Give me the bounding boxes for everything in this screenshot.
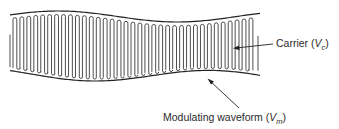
carrier-waveform [10,14,258,79]
modulating-label-group: Modulating waveform (Vm) [163,79,286,126]
carrier-label-group: Carrier (Vc) [233,37,329,52]
carrier-arrow-line [236,44,273,48]
carrier-loops [10,14,258,79]
modulating-arrow-line [210,81,239,108]
modulating-label: Modulating waveform (Vm) [163,111,286,126]
carrier-arrowhead-icon [233,46,240,51]
carrier-label: Carrier (Vc) [276,37,329,52]
am-waveform-diagram: Carrier (Vc) Modulating waveform (Vm) [0,0,339,129]
